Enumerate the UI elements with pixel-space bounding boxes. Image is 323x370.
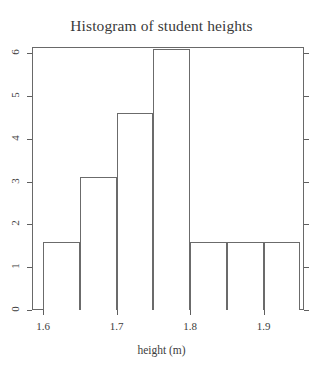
x-axis-tick <box>264 310 265 315</box>
y-axis-tick <box>27 53 32 54</box>
histogram-bar <box>43 242 80 310</box>
histogram-bars <box>32 47 304 310</box>
y-axis-tick-right <box>304 310 309 311</box>
y-axis-tick-right <box>304 96 309 97</box>
histogram-bar <box>80 177 117 310</box>
y-axis-tick-label: 4 <box>9 127 21 149</box>
y-axis-tick-label: 3 <box>9 170 21 192</box>
x-axis-tick <box>43 310 44 315</box>
x-axis-tick-label: 1.8 <box>170 320 210 332</box>
histogram-bar <box>264 242 301 310</box>
histogram-bar <box>227 242 264 310</box>
histogram-bar <box>153 49 190 310</box>
x-axis-tick-label: 1.9 <box>244 320 284 332</box>
histogram-screenshot: Histogram of student heights 1.61.71.81.… <box>0 0 323 370</box>
y-axis-tick-label: 0 <box>9 298 21 320</box>
y-axis-tick <box>27 310 32 311</box>
histogram-bar <box>117 113 154 310</box>
y-axis-tick <box>27 96 32 97</box>
y-axis-tick-right <box>304 53 309 54</box>
x-axis-tick-label: 1.7 <box>97 320 137 332</box>
y-axis-tick-right <box>304 182 309 183</box>
y-axis-tick-label: 1 <box>9 255 21 277</box>
y-axis-tick <box>27 182 32 183</box>
x-axis-tick <box>190 310 191 315</box>
page-title: Histogram of student heights <box>0 17 323 35</box>
y-axis-tick-label: 5 <box>9 84 21 106</box>
y-axis-tick-right <box>304 267 309 268</box>
y-axis-tick <box>27 139 32 140</box>
y-axis-tick <box>27 224 32 225</box>
y-axis-tick-label: 2 <box>9 212 21 234</box>
y-axis-tick-label: 6 <box>9 41 21 63</box>
x-axis-title: height (m) <box>0 344 323 356</box>
histogram-bar <box>190 242 227 310</box>
y-axis-tick <box>27 267 32 268</box>
y-axis-tick-right <box>304 224 309 225</box>
x-axis-tick-label: 1.6 <box>23 320 63 332</box>
x-axis-tick <box>117 310 118 315</box>
y-axis-tick-right <box>304 139 309 140</box>
